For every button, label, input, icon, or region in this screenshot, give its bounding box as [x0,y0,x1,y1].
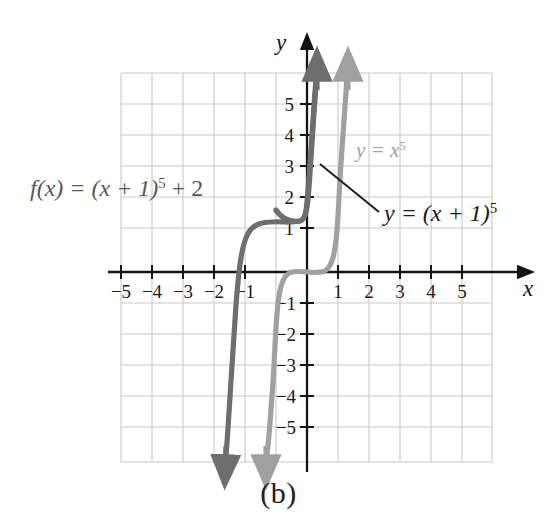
annotation-parent-lhs: y = [354,138,390,162]
y-tick-label: 4 [285,125,295,146]
x-tick-label: −3 [173,281,193,302]
annotation-main-exponent: 5 [158,175,165,191]
x-tick-label: 1 [333,281,343,302]
annotation-shifted-body: (x + 1) [423,200,490,226]
annotation-leader-line [320,164,379,212]
figure-caption: (b) [0,476,557,510]
y-tick-label: −5 [276,417,296,438]
annotation-shifted-lhs: y = [382,200,423,226]
y-tick-label: −3 [276,355,296,376]
y-tick-label: 5 [285,94,295,115]
x-tick-label: −5 [111,281,131,302]
y-tick-label: −4 [276,386,297,407]
y-tick-label: 3 [285,156,295,177]
x-tick-label: 5 [457,281,467,302]
graph-figure: −5 −4 −3 −2 −1 1 2 3 4 5 5 4 3 2 1 −1 −2… [0,0,557,528]
x-tick-label: −4 [142,281,163,302]
annotation-main-body: (x + 1) [92,175,159,201]
y-axis-label: y [274,30,287,55]
y-tick-label: 2 [285,187,295,208]
x-tick-label: 2 [364,281,374,302]
annotation-main-tail: + 2 [166,175,204,201]
annotation-main-equation: f(x) = (x + 1)5 + 2 [30,175,203,201]
y-tick-label: −2 [276,324,296,345]
coordinate-plane-svg: −5 −4 −3 −2 −1 1 2 3 4 5 5 4 3 2 1 −1 −2… [0,0,557,528]
y-tick-labels: 5 4 3 2 1 −1 −2 −3 −4 −5 [276,94,297,438]
annotation-shifted-exponent: 5 [490,200,497,216]
annotation-shifted-equation: y = (x + 1)5 [382,200,497,226]
annotation-main-lhs: f(x) = [30,175,92,201]
annotation-parent-equation: y = x5 [354,138,406,162]
x-axis-label: x [522,276,534,301]
x-tick-label: 4 [426,281,436,302]
annotation-parent-exponent: 5 [399,138,406,153]
x-tick-label: 3 [395,281,405,302]
x-tick-label: −2 [204,281,224,302]
